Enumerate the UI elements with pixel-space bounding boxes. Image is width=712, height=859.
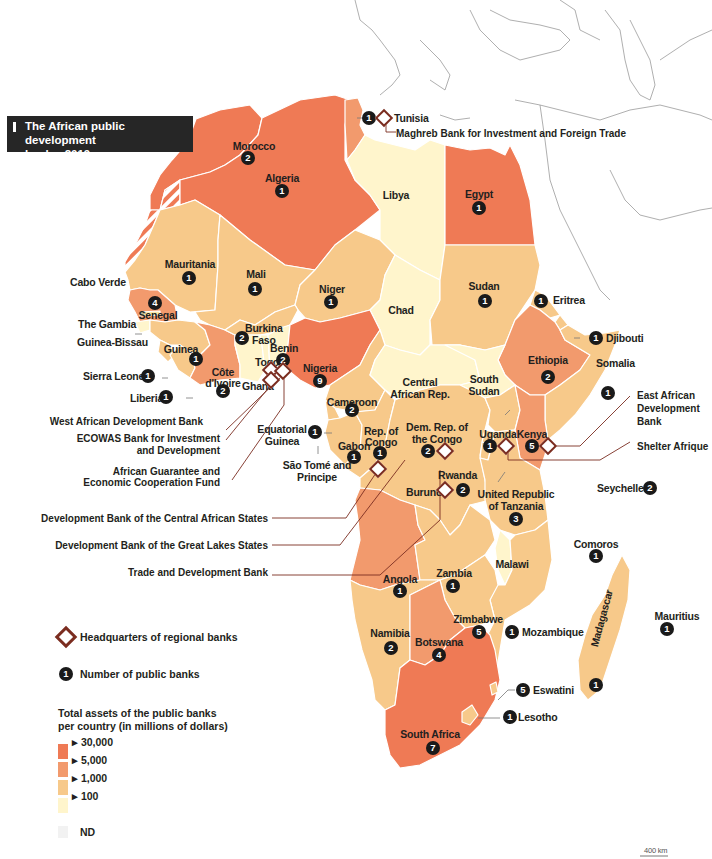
bank-wadb: West African Development Bank bbox=[50, 416, 203, 428]
legend-tick-30000: ▸ 30,000 bbox=[72, 736, 113, 748]
map-title: The African public development banks, 20… bbox=[7, 116, 193, 152]
label-sierra-leone: Sierra Leone bbox=[83, 370, 144, 382]
label-stp-2: Principe bbox=[297, 471, 337, 483]
label-zambia: Zambia bbox=[436, 567, 472, 579]
badge-mauritania: 1 bbox=[182, 271, 196, 285]
label-eqguinea-1: Equatorial bbox=[257, 423, 306, 435]
badge-liberia: 1 bbox=[159, 390, 173, 404]
title-marker bbox=[13, 122, 16, 132]
badge-lesotho: 1 bbox=[503, 710, 517, 724]
badge-comoros: 1 bbox=[589, 549, 603, 563]
label-egypt: Egypt bbox=[465, 188, 493, 200]
legend-swatch-5000 bbox=[58, 762, 68, 777]
label-mozambique: Mozambique bbox=[522, 626, 584, 638]
badge-somalia: 1 bbox=[601, 386, 615, 400]
scale-label: 400 km bbox=[644, 845, 667, 857]
bank-eadb-1: East African bbox=[637, 390, 695, 402]
label-ssudan-2: Sudan bbox=[468, 385, 499, 397]
label-niger: Niger bbox=[319, 283, 345, 295]
label-malawi: Malawi bbox=[495, 558, 528, 570]
label-zimbabwe: Zimbabwe bbox=[453, 613, 503, 625]
legend-swatch-30000 bbox=[58, 744, 68, 759]
label-senegal: Senegal bbox=[139, 309, 178, 321]
bank-ecowas-2: and Development bbox=[137, 445, 220, 457]
label-burkina-1: Burkina bbox=[245, 322, 283, 334]
legend-assets-title-2: per country (in millions of dollars) bbox=[58, 720, 228, 733]
label-namibia: Namibia bbox=[370, 627, 409, 639]
bank-shelter: Shelter Afrique bbox=[637, 441, 708, 453]
label-drc-2: the Congo bbox=[412, 433, 462, 445]
label-botswana: Botswana bbox=[415, 636, 463, 648]
badge-ethiopia: 2 bbox=[541, 370, 555, 384]
label-gambia: The Gambia bbox=[78, 318, 136, 330]
badge-djibouti: 1 bbox=[589, 331, 603, 345]
badge-tanzania: 3 bbox=[509, 512, 523, 526]
badge-zimbabwe: 5 bbox=[472, 625, 486, 639]
badge-guinea: 1 bbox=[189, 352, 203, 366]
badge-mali: 1 bbox=[248, 282, 262, 296]
badge-madagascar: 1 bbox=[589, 678, 603, 692]
label-libya: Libya bbox=[383, 189, 409, 201]
label-sudan: Sudan bbox=[468, 280, 499, 292]
legend-tick-100: ▸ 100 bbox=[72, 790, 98, 802]
legend-count-label: Number of public banks bbox=[80, 668, 200, 681]
label-eswatini: Eswatini bbox=[533, 684, 574, 696]
label-mauritius: Mauritius bbox=[655, 610, 700, 622]
badge-egypt: 1 bbox=[472, 201, 486, 215]
legend-tick-5000: ▸ 5,000 bbox=[72, 754, 107, 766]
label-tanzania-2: of Tanzania bbox=[489, 500, 544, 512]
badge-cote: 2 bbox=[216, 384, 230, 398]
label-ethiopia: Ethiopia bbox=[528, 354, 568, 366]
badge-mauritius: 1 bbox=[660, 622, 674, 636]
bank-agecf-2: Economic Cooperation Fund bbox=[83, 477, 220, 489]
badge-angola: 1 bbox=[393, 584, 407, 598]
label-nigeria: Nigeria bbox=[303, 362, 337, 374]
bank-eadb-3: Bank bbox=[637, 416, 661, 428]
badge-mozambique: 1 bbox=[505, 625, 519, 639]
legend-swatch-1000 bbox=[58, 780, 68, 795]
badge-eswatini: 5 bbox=[516, 683, 530, 697]
label-south-africa: South Africa bbox=[400, 728, 460, 740]
label-eritrea: Eritrea bbox=[553, 294, 585, 306]
badge-kenya: 5 bbox=[525, 439, 539, 453]
badge-namibia: 2 bbox=[384, 641, 398, 655]
badge-congo: 1 bbox=[373, 446, 387, 460]
label-mauritania: Mauritania bbox=[165, 258, 216, 270]
badge-cameroon: 2 bbox=[345, 403, 359, 417]
badge-rwanda: 2 bbox=[456, 483, 470, 497]
badge-gabon: 1 bbox=[347, 450, 361, 464]
bank-bdeac: Development Bank of the Central African … bbox=[41, 513, 268, 525]
label-liberia: Liberia bbox=[130, 392, 163, 404]
label-seychelles: Seychelles bbox=[597, 482, 649, 494]
bank-bdegl: Development Bank of the Great Lakes Stat… bbox=[55, 540, 268, 552]
label-car-1: Central bbox=[403, 376, 438, 388]
legend-hq-label: Headquarters of regional banks bbox=[80, 631, 238, 644]
badge-botswana: 4 bbox=[432, 648, 446, 662]
badge-niger: 1 bbox=[324, 295, 338, 309]
badge-eqguinea: 1 bbox=[308, 425, 322, 439]
label-rwanda: Rwanda bbox=[438, 469, 477, 481]
country-guinea-bissau bbox=[135, 320, 150, 333]
legend-swatch-100 bbox=[58, 798, 68, 813]
badge-drc: 2 bbox=[421, 444, 435, 458]
badge-sierra-leone: 1 bbox=[141, 369, 155, 383]
badge-seychelles: 2 bbox=[643, 481, 657, 495]
bank-eadb-2: Development bbox=[637, 403, 700, 415]
label-somalia: Somalia bbox=[596, 357, 635, 369]
badge-algeria: 1 bbox=[275, 184, 289, 198]
badge-senegal: 4 bbox=[148, 296, 162, 310]
label-ssudan-1: South bbox=[470, 373, 499, 385]
country-eswatini bbox=[490, 682, 498, 695]
badge-eritrea: 1 bbox=[534, 294, 548, 308]
bank-ecowas-1: ECOWAS Bank for Investment bbox=[77, 433, 220, 445]
label-uganda: Uganda bbox=[479, 428, 516, 440]
legend-nd-label: ND bbox=[80, 826, 95, 839]
bank-maghreb: Maghreb Bank for Investment and Foreign … bbox=[396, 128, 626, 140]
bank-tdb: Trade and Development Bank bbox=[128, 567, 268, 579]
badge-south-africa: 7 bbox=[426, 741, 440, 755]
label-eqguinea-2: Guinea bbox=[265, 435, 299, 447]
legend-assets-title-1: Total assets of the public banks bbox=[58, 707, 217, 720]
badge-burkina: 2 bbox=[235, 331, 249, 345]
label-drc-1: Dem. Rep. of bbox=[406, 421, 468, 433]
label-chad: Chad bbox=[388, 304, 413, 316]
